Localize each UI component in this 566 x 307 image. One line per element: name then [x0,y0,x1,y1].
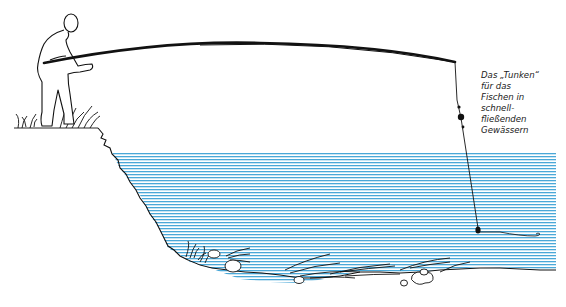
diagram-caption: Das „Tunken“ für das Fischen in schnell-… [481,70,565,136]
sinker [475,226,480,233]
float [457,105,464,128]
caption-line-2: für das [481,81,565,92]
fishing-diagram: Das „Tunken“ für das Fischen in schnell-… [0,0,566,307]
caption-line-3: Fischen in [481,92,565,103]
angler [38,14,93,126]
caption-line-6: Gewässern [481,125,565,136]
caption-line-1: Das „Tunken“ [481,70,565,81]
caption-line-5: fließenden [481,114,565,125]
water [100,152,560,292]
bank-grass [14,106,100,128]
caption-line-4: schnell- [481,103,565,114]
